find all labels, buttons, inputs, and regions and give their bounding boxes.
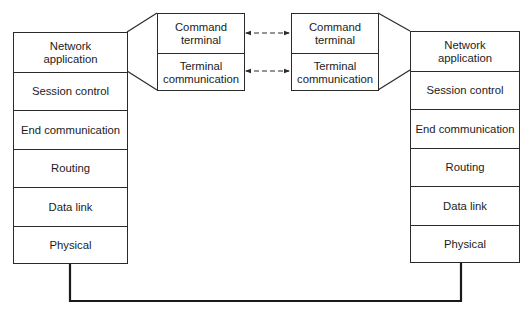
right-expansion-bottom-line xyxy=(378,70,410,90)
layer-routing: Routing xyxy=(411,148,519,186)
right-node-stack: Network application Session control End … xyxy=(410,31,520,263)
layer-end-communication: End communication xyxy=(411,109,519,148)
right-expansion-top-line xyxy=(378,13,410,31)
physical-link-line xyxy=(70,262,461,301)
left-expansion-top-line xyxy=(127,13,157,32)
layer-network-application: Network application xyxy=(411,32,519,71)
layer-physical: Physical xyxy=(14,226,127,264)
layer-routing: Routing xyxy=(14,149,127,187)
inset-command-terminal: Command terminal xyxy=(292,14,378,53)
layer-network-application: Network application xyxy=(14,33,127,72)
left-application-inset: Command terminal Terminal communication xyxy=(157,13,245,91)
layer-data-link: Data link xyxy=(411,186,519,225)
inset-terminal-communication: Terminal communication xyxy=(292,53,378,91)
right-application-inset: Command terminal Terminal communication xyxy=(291,13,379,91)
left-node-stack: Network application Session control End … xyxy=(13,32,128,264)
layer-session-control: Session control xyxy=(14,72,127,110)
layer-session-control: Session control xyxy=(411,71,519,109)
inset-terminal-communication: Terminal communication xyxy=(158,53,244,91)
layer-data-link: Data link xyxy=(14,187,127,226)
layer-physical: Physical xyxy=(411,225,519,263)
left-expansion-bottom-line xyxy=(127,71,157,90)
inset-command-terminal: Command terminal xyxy=(158,14,244,53)
layer-end-communication: End communication xyxy=(14,110,127,149)
